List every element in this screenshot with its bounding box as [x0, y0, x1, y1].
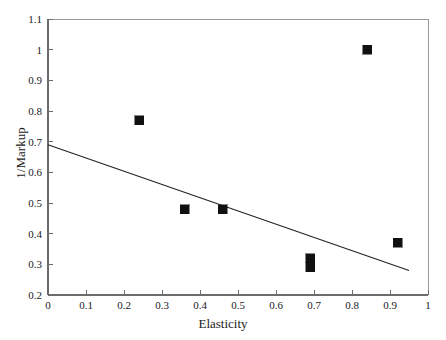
y-tick-label: 0.4 [8, 229, 42, 240]
data-point-marker [218, 205, 227, 214]
plot-canvas [0, 0, 446, 340]
x-tick-label: 1 [413, 300, 443, 311]
x-tick-label: 0.9 [375, 300, 405, 311]
plot-frame [48, 19, 428, 295]
x-tick-label: 0.3 [147, 300, 177, 311]
data-point-marker [180, 205, 189, 214]
data-point-markers [135, 45, 402, 272]
data-point-marker [363, 45, 372, 54]
y-tick-label: 1 [8, 45, 42, 56]
x-tick-label: 0.1 [71, 300, 101, 311]
x-axis-ticks [48, 290, 428, 295]
data-point-marker [306, 254, 315, 263]
x-tick-label: 0.8 [337, 300, 367, 311]
y-axis-ticks [48, 19, 53, 295]
x-tick-label: 0 [33, 300, 63, 311]
data-point-marker [393, 238, 402, 247]
data-point-marker [306, 263, 315, 272]
x-tick-label: 0.6 [261, 300, 291, 311]
y-tick-label: 0.3 [8, 259, 42, 270]
x-tick-label: 0.4 [185, 300, 215, 311]
scatter-chart-figure: 0.20.30.40.50.60.70.80.911.100.10.20.30.… [0, 0, 446, 340]
y-tick-label: 0.5 [8, 198, 42, 209]
y-tick-label: 1.1 [8, 14, 42, 25]
x-tick-label: 0.5 [223, 300, 253, 311]
x-tick-label: 0.7 [299, 300, 329, 311]
x-axis-title: Elasticity [0, 316, 446, 332]
data-point-marker [135, 116, 144, 125]
y-tick-label: 0.9 [8, 75, 42, 86]
x-tick-label: 0.2 [109, 300, 139, 311]
y-axis-title: 1/Markup [13, 108, 29, 198]
regression-line [48, 145, 409, 271]
